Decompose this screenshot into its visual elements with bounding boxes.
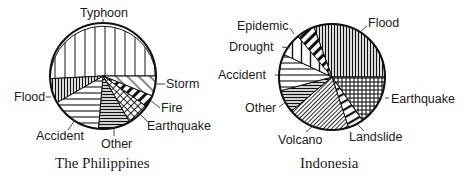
pie-charts-figure: Typhoon Storm Fire Earthquake Other Acci…: [0, 0, 471, 181]
label-other: Other: [245, 101, 276, 115]
label-storm: Storm: [166, 77, 199, 91]
label-landslide: Landslide: [349, 130, 403, 144]
label-volcano: Volcano: [278, 133, 323, 147]
label-drought: Drought: [229, 40, 274, 54]
indonesia-pie: Flood Earthquake Landslide Volcano Other…: [218, 16, 455, 171]
slice-typhoon: [50, 26, 156, 78]
label-epidemic: Epidemic: [237, 19, 288, 33]
label-accident: Accident: [218, 68, 266, 82]
chart-title-philippines: The Philippines: [55, 155, 150, 171]
label-accident: Accident: [36, 129, 84, 143]
label-flood: Flood: [14, 90, 45, 104]
philippines-pie: Typhoon Storm Fire Earthquake Other Acci…: [14, 6, 211, 171]
label-typhoon: Typhoon: [80, 6, 128, 20]
chart-title-indonesia: Indonesia: [300, 155, 359, 171]
label-earthquake: Earthquake: [147, 119, 211, 133]
label-flood: Flood: [368, 16, 399, 30]
label-other: Other: [101, 137, 132, 151]
label-earthquake: Earthquake: [391, 92, 455, 106]
label-fire: Fire: [161, 101, 183, 115]
